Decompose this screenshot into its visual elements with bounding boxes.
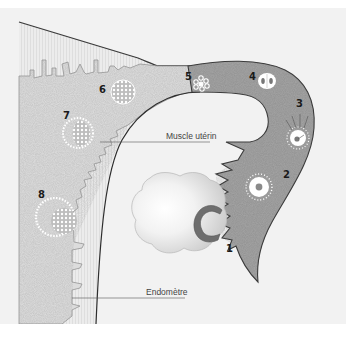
stage-number-8: 8: [38, 189, 45, 200]
uterus-tube-diagram: Muscle utérin Endomètre 1 2 3 4 5 6 7 8: [0, 0, 346, 338]
stage-6-blastocyst: [111, 80, 135, 104]
stage-number-1: 1: [226, 243, 233, 254]
label-endometre: Endomètre: [146, 287, 188, 297]
stage-4-two-cell: [258, 73, 276, 89]
stage-number-2: 2: [283, 169, 290, 180]
stage-number-7: 7: [63, 110, 70, 121]
stage-number-4: 4: [249, 71, 256, 82]
stage-number-5: 5: [185, 71, 192, 82]
label-muscle-uterin: Muscle utérin: [166, 131, 217, 141]
stage-number-3: 3: [296, 98, 303, 109]
stage-number-6: 6: [99, 84, 106, 95]
page-bottom: [0, 324, 346, 338]
